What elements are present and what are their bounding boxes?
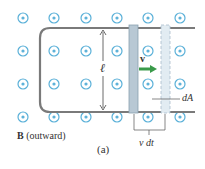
moving-rod (129, 25, 138, 113)
length-label: ℓ (100, 61, 105, 76)
field-label: B (outward) (17, 130, 66, 141)
caption: (a) (97, 143, 109, 155)
displacement-label: v dt (139, 137, 154, 148)
field-symbol: B (17, 130, 24, 141)
area-label: dA (182, 92, 193, 103)
field-direction: (outward) (26, 130, 65, 141)
rail-circuit (40, 28, 195, 112)
rod-later-position (161, 25, 170, 113)
velocity-label: v (140, 53, 145, 64)
